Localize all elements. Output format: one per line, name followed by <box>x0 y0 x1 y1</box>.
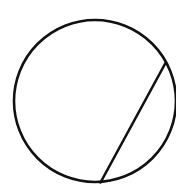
circle <box>14 20 176 182</box>
diagram-canvas <box>0 0 176 193</box>
circle-chord-figure <box>0 0 176 193</box>
chord-line <box>101 63 166 183</box>
